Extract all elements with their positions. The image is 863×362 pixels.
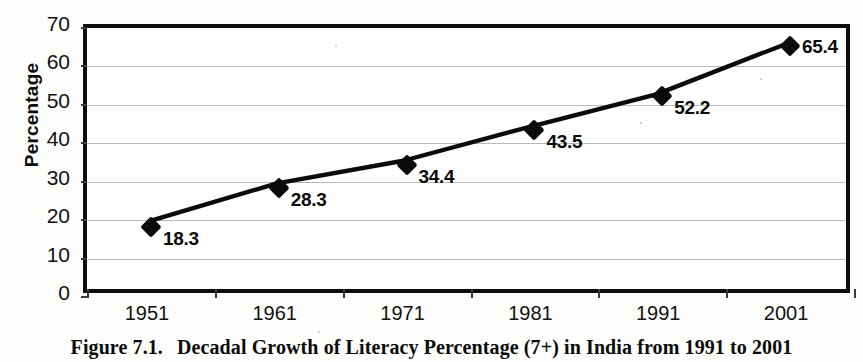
scan-artifact [760,78,762,80]
scan-artifact [335,45,337,47]
y-axis-tick [81,219,87,221]
y-axis-tick [81,104,87,106]
y-axis-tick-label: 60 [10,51,70,72]
y-axis-tick-label: 30 [10,167,70,188]
data-point-labels: 18.328.334.443.552.265.4 [87,28,846,289]
scan-artifact [318,331,320,333]
y-axis-tick [81,27,87,29]
data-point-label: 28.3 [291,189,327,211]
y-axis-tick-label: 20 [10,205,70,226]
y-axis-tick-label: 10 [10,244,70,265]
x-axis-tick [726,289,728,298]
y-axis-tick-label: 70 [10,13,70,34]
figure-caption: Figure 7.1.Decadal Growth of Literacy Pe… [0,336,863,359]
x-axis-tick-label: 1981 [470,302,590,325]
data-point-label: 43.5 [546,131,582,153]
y-axis-tick [81,181,87,183]
x-axis-tick [854,289,856,298]
y-axis-tick [81,65,87,67]
figure-caption-text: Decadal Growth of Literacy Percentage (7… [177,336,792,358]
x-axis-tick [598,289,600,298]
data-point-label: 18.3 [163,228,199,250]
y-axis-tick [81,258,87,260]
data-point-label: 65.4 [802,36,838,58]
x-axis-tick-label: 1961 [215,302,335,325]
x-axis-tick [215,289,217,298]
scan-artifact [640,122,642,124]
y-axis-tick [81,296,87,298]
figure-number: Figure 7.1. [71,336,163,358]
plot-area: 18.328.334.443.552.265.4 [83,24,850,293]
x-axis-tick-label: 2001 [726,302,846,325]
y-axis-tick-label: 50 [10,90,70,111]
x-axis-tick [87,289,89,298]
x-axis-tick-label: 1971 [343,302,463,325]
y-axis-tick [81,142,87,144]
y-axis-tick-label: 0 [10,282,70,303]
data-point-label: 34.4 [419,166,455,188]
y-axis-tick-label: 40 [10,128,70,149]
figure-container: Percentage 706050403020100 1951196119711… [0,0,863,362]
data-point-label: 52.2 [674,97,710,119]
x-axis-tick-label: 1951 [87,302,207,325]
x-axis-tick [343,289,345,298]
x-axis-tick-label: 1991 [598,302,718,325]
x-axis-tick [471,289,473,298]
